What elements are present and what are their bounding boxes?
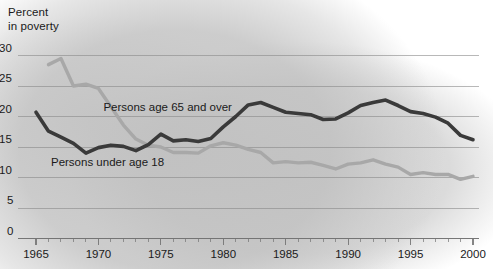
series-label-under18: Persons under age 18 (51, 156, 164, 168)
plot-area (0, 0, 493, 269)
x-tick-label-1975: 1975 (141, 248, 181, 260)
series-line-under18 (36, 100, 473, 153)
x-tick-label-1965: 1965 (16, 248, 56, 260)
x-tick-label-1995: 1995 (391, 248, 431, 260)
x-tick-label-1985: 1985 (266, 248, 306, 260)
series-label-over65: Persons age 65 and over (103, 101, 232, 113)
y-tick-label-20: 20 (0, 103, 17, 115)
y-tick-label-10: 10 (0, 164, 17, 176)
y-tick-label-0: 0 (7, 225, 17, 237)
x-tick-label-1990: 1990 (328, 248, 368, 260)
y-tick-label-30: 30 (0, 42, 17, 54)
y-tick-label-25: 25 (0, 72, 17, 84)
x-tick-label-2000: 2000 (453, 248, 493, 260)
x-tick-label-1970: 1970 (78, 248, 118, 260)
y-tick-label-5: 5 (7, 194, 17, 206)
y-tick-label-15: 15 (0, 133, 17, 145)
poverty-line-chart: Percentin poverty 051015202530 196519701… (0, 0, 493, 269)
x-tick-label-1980: 1980 (203, 248, 243, 260)
